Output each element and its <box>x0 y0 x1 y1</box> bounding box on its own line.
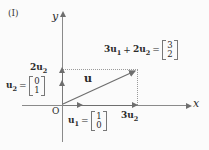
equation-resultant: 3u1 + 2u2 = 3 2 <box>104 40 178 60</box>
column-vector-u2: 0 1 <box>29 76 45 96</box>
vector-u1-shaft <box>63 105 78 106</box>
column-vector-u1: 1 0 <box>91 111 107 131</box>
vector-3u2-arrowhead <box>132 102 138 108</box>
equation-plus-sign: + <box>123 45 131 55</box>
basis-u1-equals-sign: = <box>81 116 89 126</box>
label-2u2-subscript: 2 <box>43 67 48 75</box>
vector-entry: 2 <box>167 50 172 59</box>
label-resultant-u: u <box>84 72 92 85</box>
label-3u2: 3u2 <box>121 110 138 123</box>
equation-equals-sign: = <box>152 45 160 55</box>
column-vector-entries: 1 0 <box>95 111 103 131</box>
label-2u2: 2u2 <box>30 62 47 75</box>
equation-term1: 3u1 <box>104 44 121 57</box>
column-vector-entries: 0 1 <box>33 76 41 96</box>
origin-label: O <box>52 106 59 116</box>
bracket-right <box>174 40 178 60</box>
label-3u2-text: 3u <box>121 110 134 120</box>
equation-basis-u2: u2 = 0 1 <box>6 76 45 96</box>
vector-u1-arrowhead <box>77 102 83 108</box>
vector-diagram: (I) y x O 2u2 3u2 u 3u1 + <box>0 0 209 150</box>
x-axis-label: x <box>193 97 199 110</box>
vector-u2-arrowhead <box>59 80 65 86</box>
vector-2u2-arrowhead <box>59 67 65 73</box>
column-vector-resultant: 3 2 <box>162 40 178 60</box>
vector-entry: 0 <box>96 121 101 130</box>
y-axis-label: y <box>52 10 58 23</box>
basis-u2-name: u2 <box>6 80 17 93</box>
x-axis-arrowhead <box>186 103 192 109</box>
vertical-guide-line <box>137 70 138 105</box>
column-vector-entries: 3 2 <box>166 40 174 60</box>
horizontal-guide-line <box>63 69 138 70</box>
y-axis-arrowhead <box>60 11 66 17</box>
bracket-right <box>41 76 45 96</box>
basis-u1-name: u1 <box>68 115 79 128</box>
vector-entry: 1 <box>34 86 39 95</box>
equation-basis-u1: u1 = 1 0 <box>68 111 107 131</box>
label-3u2-subscript: 2 <box>134 115 139 123</box>
label-2u2-text: 2u <box>30 62 43 72</box>
vector-u2-shaft <box>62 85 63 105</box>
equation-term2: 2u2 <box>133 44 150 57</box>
bracket-right <box>103 111 107 131</box>
basis-u2-equals-sign: = <box>19 81 27 91</box>
figure-label: (I) <box>8 8 19 18</box>
